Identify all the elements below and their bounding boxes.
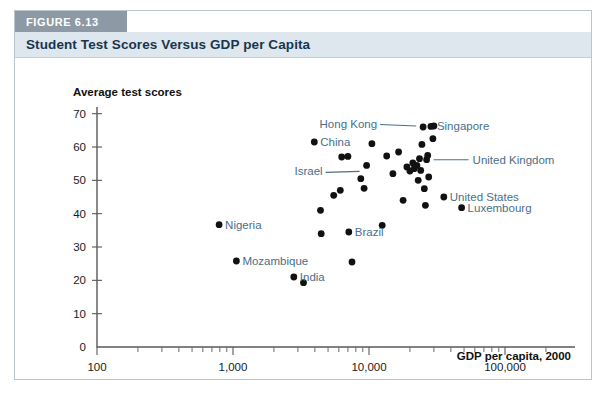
figure-number-badge: FIGURE 6.13 [15,11,127,32]
data-point-china [311,139,318,146]
data-point [357,175,364,182]
data-point [400,197,407,204]
figure-card: FIGURE 6.13 Student Test Scores Versus G… [14,10,592,380]
x-axis-tick-label: 1,000 [219,361,248,373]
data-point [318,230,325,237]
data-point [317,207,324,214]
data-point-mozambique [233,258,240,265]
leader-line [380,125,416,127]
figure-number-label: FIGURE 6.13 [26,16,99,28]
scatter-plot: 0102030405060701001,00010,000100,000 Nig… [15,58,591,380]
y-axis-tick-label: 10 [73,308,86,320]
data-point [422,202,429,209]
y-axis-title: Average test scores [73,86,182,98]
point-label-luxembourg: Luxembourg [468,202,532,214]
point-label-hong-kong: Hong Kong [320,118,378,130]
data-point [415,177,422,184]
data-point-hong-kong [420,124,427,131]
y-axis-tick-label: 40 [73,208,86,220]
data-point [361,185,368,192]
figure-title: Student Test Scores Versus GDP per Capit… [26,37,310,52]
data-point [416,155,423,162]
data-point-luxembourg [458,204,465,211]
data-point [383,153,390,160]
data-point [337,187,344,194]
data-point [395,149,402,156]
data-point [369,140,376,147]
x-axis-tick-label: 100 [87,361,106,373]
data-point-india [290,274,297,281]
data-point-united-states [440,194,447,201]
y-axis-tick-label: 70 [73,108,86,120]
data-point [417,167,424,174]
leader-line [326,171,360,172]
y-axis-tick-label: 0 [80,341,86,353]
data-point-brazil [345,229,352,236]
data-point [419,141,426,148]
point-label-singapore: Singapore [437,120,489,132]
data-point [421,185,428,192]
point-label-india: India [300,271,326,283]
x-axis-tick-label: 100,000 [484,361,526,373]
x-axis-title: GDP per capita, 2000 [457,350,571,362]
data-point [390,170,397,177]
point-label-brazil: Brazil [355,226,384,238]
figure-title-bar: Student Test Scores Versus GDP per Capit… [15,32,591,58]
y-axis-tick-label: 20 [73,274,86,286]
x-axis-tick-label: 10,000 [351,361,386,373]
point-label-united-kingdom: United Kingdom [473,154,555,166]
data-point [338,154,345,161]
data-point [425,174,432,181]
y-axis-tick-label: 60 [73,141,86,153]
data-point [349,259,356,266]
data-point [430,135,437,142]
data-point-nigeria [216,221,223,228]
point-label-israel: Israel [294,165,322,177]
scatter-plot-canvas: 0102030405060701001,00010,000100,000 Nig… [15,58,591,380]
point-labels-layer: NigeriaMozambiqueIndiaChinaBrazilIsraelH… [225,118,554,284]
point-label-china: China [320,136,351,148]
data-point [345,153,352,160]
point-label-nigeria: Nigeria [225,219,262,231]
data-point [330,192,337,199]
data-point-israel [363,162,370,169]
y-axis-tick-label: 50 [73,174,86,186]
data-point [424,152,431,159]
point-label-mozambique: Mozambique [242,255,308,267]
y-axis-tick-label: 30 [73,241,86,253]
